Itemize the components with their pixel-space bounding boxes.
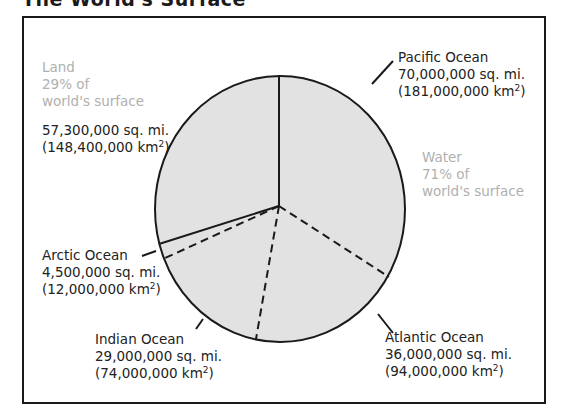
pacific-km: (181,000,000 km2) [398,83,525,100]
land-percent: 29% of [42,76,144,93]
water-description: world's surface [422,183,524,200]
atlantic-label: Atlantic Ocean 36,000,000 sq. mi. (94,00… [385,329,512,380]
pacific-sqmi: 70,000,000 sq. mi. [398,66,525,83]
arctic-sqmi: 4,500,000 sq. mi. [42,264,161,281]
atlantic-km: (94,000,000 km2) [385,363,512,380]
atlantic-name: Atlantic Ocean [385,329,512,346]
leader-pacific [372,61,393,84]
land-group-label: Land 29% of world's surface [42,59,144,110]
pacific-name: Pacific Ocean [398,49,525,66]
land-description: world's surface [42,93,144,110]
land-km: (148,400,000 km2) [42,139,169,156]
indian-km: (74,000,000 km2) [95,365,222,382]
water-heading: Water [422,149,524,166]
leader-indian [196,319,203,329]
land-sqmi: 57,300,000 sq. mi. [42,122,169,139]
arctic-label: Arctic Ocean 4,500,000 sq. mi. (12,000,0… [42,247,161,298]
land-area-label: 57,300,000 sq. mi. (148,400,000 km2) [42,122,169,156]
arctic-name: Arctic Ocean [42,247,161,264]
atlantic-sqmi: 36,000,000 sq. mi. [385,346,512,363]
indian-sqmi: 29,000,000 sq. mi. [95,348,222,365]
water-percent: 71% of [422,166,524,183]
water-group-label: Water 71% of world's surface [422,149,524,200]
indian-name: Indian Ocean [95,331,222,348]
pacific-label: Pacific Ocean 70,000,000 sq. mi. (181,00… [398,49,525,100]
indian-label: Indian Ocean 29,000,000 sq. mi. (74,000,… [95,331,222,382]
land-heading: Land [42,59,144,76]
arctic-km: (12,000,000 km2) [42,281,161,298]
